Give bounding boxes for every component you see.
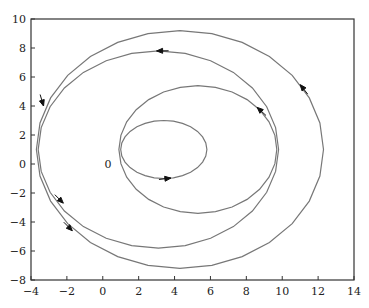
x-tick-label: 14: [347, 285, 361, 298]
x-tick-label: 10: [275, 285, 289, 298]
y-tick-label: 8: [19, 42, 26, 55]
y-tick-label: 2: [19, 129, 26, 142]
plot-frame: [31, 19, 354, 280]
y-tick-label: 10: [12, 13, 26, 26]
x-tick-label: 2: [135, 285, 142, 298]
y-tick-label: −6: [10, 245, 26, 258]
y-tick-label: −2: [10, 187, 26, 200]
origin-annotation: 0: [105, 158, 112, 171]
y-tick-label: 0: [19, 158, 26, 171]
direction-arrow-icon-0: [39, 100, 44, 106]
x-tick-label: 4: [171, 285, 178, 298]
orbit-4-arrow-icon: [300, 85, 306, 91]
y-tick-label: −8: [10, 274, 26, 287]
orbit-3-curve: [38, 51, 278, 248]
orbit-chart: −4−202468101214−8−6−4−202468100: [0, 0, 369, 308]
x-tick-label: 6: [207, 285, 214, 298]
x-tick-label: −2: [59, 285, 75, 298]
orbit-1-arrow-icon: [165, 176, 171, 181]
orbit-3-arrow-icon: [157, 48, 163, 53]
orbit-1-curve: [121, 121, 207, 179]
x-tick-label: 8: [243, 285, 250, 298]
x-tick-label: 0: [99, 285, 106, 298]
orbit-2-curve: [119, 86, 277, 214]
orbit-4-curve: [36, 31, 323, 269]
y-tick-label: −4: [10, 216, 26, 229]
x-tick-label: 12: [311, 285, 325, 298]
y-tick-label: 6: [19, 71, 26, 84]
y-tick-label: 4: [19, 100, 26, 113]
